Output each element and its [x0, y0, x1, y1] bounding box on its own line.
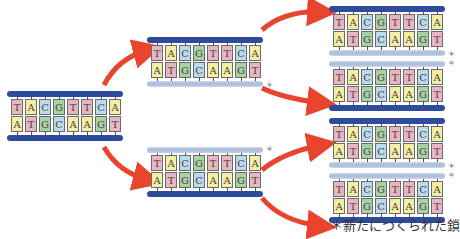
new-strand-caption: ＊新たにつくられた鎖	[330, 215, 460, 234]
base-G: G	[193, 45, 205, 61]
base-T: T	[389, 14, 401, 30]
base-C: C	[235, 45, 247, 61]
base-C: C	[235, 155, 247, 171]
base-T: T	[11, 99, 23, 115]
base-G: G	[193, 155, 205, 171]
base-C: C	[53, 116, 65, 132]
base-A: A	[249, 155, 261, 171]
top-base-row: TACGTTCA	[11, 99, 121, 115]
base-G: G	[417, 143, 429, 159]
base-C: C	[193, 172, 205, 188]
base-T: T	[403, 14, 415, 30]
base-A: A	[151, 172, 163, 188]
base-T: T	[431, 86, 443, 102]
base-T: T	[403, 69, 415, 85]
base-A: A	[221, 62, 233, 78]
base-A: A	[221, 172, 233, 188]
base-G: G	[235, 62, 247, 78]
original-strand	[147, 37, 263, 43]
new-strand	[329, 173, 445, 179]
base-A: A	[333, 143, 345, 159]
base-A: A	[431, 14, 443, 30]
base-G: G	[53, 99, 65, 115]
base-C: C	[375, 86, 387, 102]
base-G: G	[375, 181, 387, 197]
base-A: A	[81, 116, 93, 132]
new-strand	[147, 81, 263, 87]
base-T: T	[403, 181, 415, 197]
base-G: G	[417, 31, 429, 47]
base-G: G	[361, 198, 373, 214]
base-A: A	[403, 31, 415, 47]
new-strand	[329, 162, 445, 168]
base-T: T	[333, 14, 345, 30]
base-A: A	[333, 31, 345, 47]
base-C: C	[375, 143, 387, 159]
base-T: T	[249, 62, 261, 78]
top-base-row: TACGTTCA	[151, 155, 261, 171]
base-T: T	[221, 155, 233, 171]
base-A: A	[389, 143, 401, 159]
original-strand	[329, 105, 445, 111]
base-C: C	[375, 31, 387, 47]
new-strand-marker: ＊	[448, 169, 455, 179]
base-T: T	[431, 143, 443, 159]
base-A: A	[165, 45, 177, 61]
base-T: T	[347, 143, 359, 159]
base-G: G	[361, 31, 373, 47]
base-A: A	[109, 99, 121, 115]
base-T: T	[165, 62, 177, 78]
original-strand	[7, 91, 123, 97]
dna-molecule: TACGTTCAATGCAAGT＊	[147, 147, 263, 197]
top-base-row: TACGTTCA	[333, 69, 443, 85]
base-A: A	[25, 99, 37, 115]
bottom-base-row: ATGCAAGT	[151, 172, 261, 188]
base-A: A	[431, 126, 443, 142]
base-G: G	[417, 198, 429, 214]
base-C: C	[361, 181, 373, 197]
base-C: C	[179, 155, 191, 171]
new-strand-marker: ＊	[266, 143, 273, 153]
base-C: C	[361, 69, 373, 85]
base-A: A	[403, 143, 415, 159]
base-T: T	[403, 126, 415, 142]
base-C: C	[361, 14, 373, 30]
top-base-row: TACGTTCA	[151, 45, 261, 61]
base-A: A	[333, 86, 345, 102]
new-strand	[329, 61, 445, 67]
base-T: T	[389, 69, 401, 85]
base-C: C	[361, 126, 373, 142]
base-A: A	[333, 198, 345, 214]
base-A: A	[431, 181, 443, 197]
base-A: A	[389, 31, 401, 47]
base-A: A	[431, 69, 443, 85]
base-G: G	[235, 172, 247, 188]
base-A: A	[389, 86, 401, 102]
base-A: A	[165, 155, 177, 171]
new-strand-marker: ＊	[266, 79, 273, 89]
base-T: T	[25, 116, 37, 132]
new-strand	[147, 147, 263, 153]
dna-molecule: TACGTTCAATGCAAGT＊	[147, 37, 263, 87]
base-C: C	[417, 181, 429, 197]
dna-molecule: TACGTTCAATGCAAGT＊	[329, 118, 445, 168]
original-strand	[329, 118, 445, 124]
base-C: C	[375, 198, 387, 214]
base-A: A	[403, 86, 415, 102]
base-T: T	[347, 31, 359, 47]
base-C: C	[95, 99, 107, 115]
base-T: T	[333, 69, 345, 85]
base-G: G	[179, 172, 191, 188]
original-strand	[329, 6, 445, 12]
bottom-base-row: ATGCAAGT	[333, 86, 443, 102]
dna-molecule: TACGTTCAATGCAAGT＊	[329, 61, 445, 111]
base-G: G	[375, 126, 387, 142]
base-C: C	[193, 62, 205, 78]
base-T: T	[431, 31, 443, 47]
base-A: A	[67, 116, 79, 132]
base-A: A	[249, 45, 261, 61]
original-strand	[147, 191, 263, 197]
base-G: G	[375, 69, 387, 85]
base-G: G	[361, 143, 373, 159]
base-C: C	[417, 14, 429, 30]
